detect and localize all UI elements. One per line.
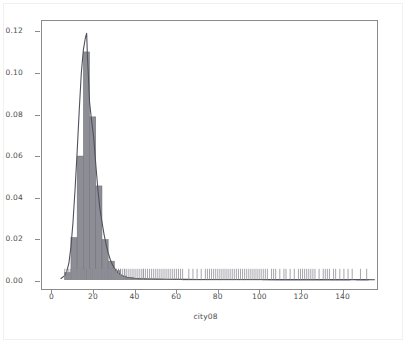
y-axis-tick-label: 0.10 xyxy=(6,68,24,77)
rug-plot-marks xyxy=(65,269,367,280)
y-axis-tick-mark xyxy=(35,239,40,240)
y-axis-tick-mark xyxy=(35,198,40,199)
x-axis-tick-mark xyxy=(259,290,260,294)
y-axis-tick-label: 0.12 xyxy=(6,26,24,35)
y-axis-tick-mark xyxy=(35,31,40,32)
y-axis-tick-mark xyxy=(35,73,40,74)
histogram-bar xyxy=(77,156,83,280)
y-axis-tick-mark xyxy=(35,281,40,282)
x-axis-tick-mark xyxy=(51,290,52,294)
histogram-bar xyxy=(108,261,114,280)
y-axis-tick-mark xyxy=(35,115,40,116)
y-axis-tick-label: 0.04 xyxy=(6,193,24,202)
y-axis-tick-label: 0.06 xyxy=(6,151,24,160)
x-axis-tick-mark xyxy=(135,290,136,294)
y-axis-tick-label: 0.08 xyxy=(6,110,24,119)
x-axis-tick-mark xyxy=(93,290,94,294)
histogram-bar xyxy=(90,117,96,280)
distribution-plot-svg xyxy=(42,21,377,289)
plot-drawing-area xyxy=(42,21,377,289)
plot-axes-frame xyxy=(41,20,378,290)
y-axis-tick-label: 0.00 xyxy=(6,276,24,285)
x-axis-tick-mark xyxy=(301,290,302,294)
x-axis-tick-mark xyxy=(176,290,177,294)
histogram-bar xyxy=(71,237,77,279)
y-axis-tick-mark xyxy=(35,156,40,157)
x-axis-tick-mark xyxy=(218,290,219,294)
histogram-bars xyxy=(65,52,369,280)
x-axis-tick-mark xyxy=(343,290,344,294)
y-axis-tick-label: 0.02 xyxy=(6,234,24,243)
figure-canvas: 0.000.020.040.060.080.100.12 02040608010… xyxy=(0,0,407,344)
histogram-bar xyxy=(102,240,108,280)
x-axis-label: city08 xyxy=(193,312,217,321)
